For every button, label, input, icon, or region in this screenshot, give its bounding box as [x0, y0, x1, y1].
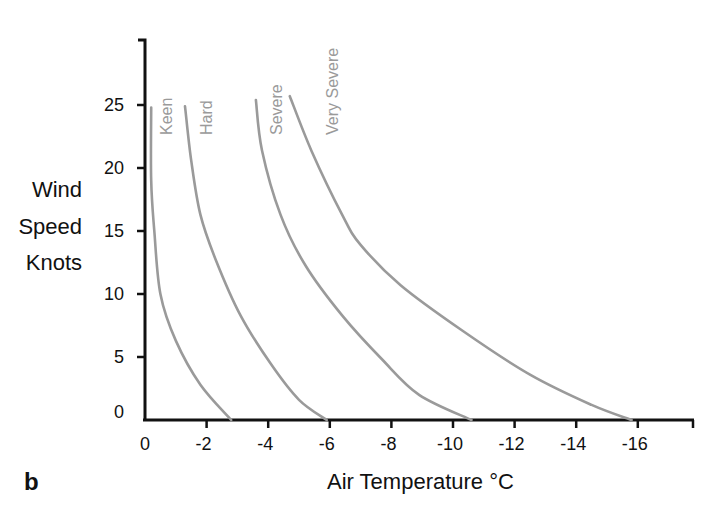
curve-severe: [256, 100, 472, 420]
x-tick-label: -2: [196, 434, 212, 454]
x-tick-label: 0: [140, 434, 150, 454]
x-tick-label: -10: [437, 434, 463, 454]
y-tick-label: 5: [114, 347, 124, 367]
curve-label-severe: Severe: [268, 84, 285, 135]
y-tick-label: 10: [104, 284, 124, 304]
x-axis-title: Air Temperature °C: [327, 469, 514, 494]
x-ticks: 0-2-4-6-8-10-12-14-16: [140, 420, 693, 454]
axes: [138, 40, 694, 420]
wind-chill-chart: 0510152025 0-2-4-6-8-10-12-14-16 Keen Ha…: [0, 0, 723, 512]
curve-label-very-severe: Very Severe: [324, 48, 341, 135]
y-ticks: 0510152025: [104, 95, 145, 422]
curve-label-keen: Keen: [158, 98, 175, 135]
panel-label: b: [24, 468, 39, 495]
x-tick-label: -8: [380, 434, 396, 454]
x-tick-label: -16: [622, 434, 648, 454]
x-tick-label: -12: [499, 434, 525, 454]
y-tick-label: 25: [104, 95, 124, 115]
x-tick-label: -4: [257, 434, 273, 454]
y-tick-label: 0: [114, 402, 124, 422]
y-tick-label: 20: [104, 158, 124, 178]
x-tick-label: -6: [319, 434, 335, 454]
curve-very-severe: [290, 96, 632, 420]
y-axis-title-line-2: Speed: [18, 214, 82, 239]
y-axis-title: Wind Speed Knots: [18, 177, 82, 275]
y-axis-title-line-3: Knots: [26, 250, 82, 275]
curve-label-hard: Hard: [198, 100, 215, 135]
y-axis-title-line-1: Wind: [32, 177, 82, 202]
curves: [151, 96, 632, 420]
y-tick-label: 15: [104, 221, 124, 241]
x-tick-label: -14: [560, 434, 586, 454]
